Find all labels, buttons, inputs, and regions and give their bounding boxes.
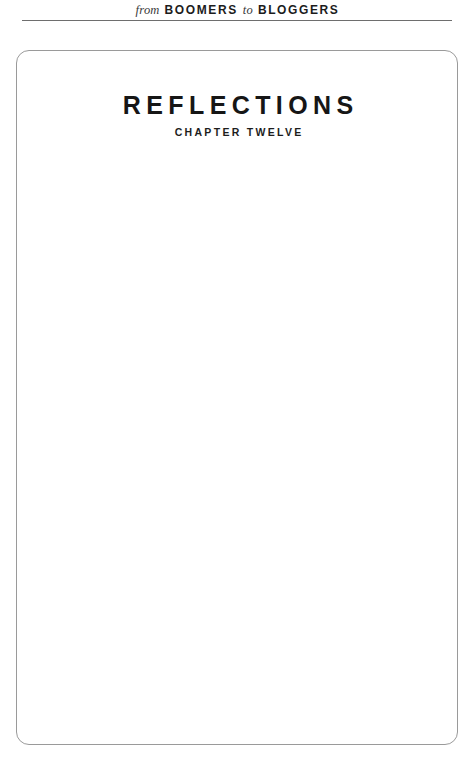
page-title: REFLECTIONS — [17, 93, 459, 118]
chapter-title-block: REFLECTIONS CHAPTER TWELVE — [17, 93, 459, 138]
chapter-subtitle: CHAPTER TWELVE — [17, 127, 459, 138]
running-header-book-first: BOOMERS — [165, 3, 238, 17]
running-header-book-second: BLOGGERS — [258, 3, 339, 17]
page-body-blank-area — [17, 161, 459, 744]
page-frame: REFLECTIONS CHAPTER TWELVE — [16, 50, 458, 745]
running-header: from BOOMERS to BLOGGERS — [0, 0, 475, 20]
running-header-to: to — [243, 3, 253, 18]
running-header-from: from — [136, 3, 160, 18]
header-divider-rule — [22, 20, 452, 21]
